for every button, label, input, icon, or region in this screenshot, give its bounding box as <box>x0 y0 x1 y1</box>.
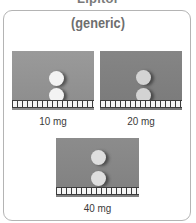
pill-icon <box>49 71 64 86</box>
scale-ruler <box>12 100 94 108</box>
tablet-photo-20mg <box>100 51 182 110</box>
tablet-label-10mg: 10 mg <box>16 115 90 127</box>
tablet-photo-10mg <box>12 51 94 110</box>
tablet-label-20mg: 20 mg <box>104 115 178 127</box>
scale-ruler <box>56 187 139 195</box>
pill-icon <box>91 150 106 165</box>
clipped-heading: Lipitor <box>0 0 196 6</box>
scale-ruler <box>100 100 182 108</box>
pill-icon <box>136 70 151 85</box>
tablet-photo-40mg <box>56 138 139 197</box>
pill-icon <box>91 171 106 186</box>
tablet-label-40mg: 40 mg <box>60 202 135 214</box>
card-title: (generic) <box>15 14 182 31</box>
